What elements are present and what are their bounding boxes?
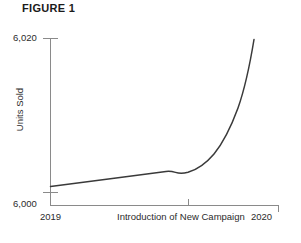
y-axis-title: Units Sold — [14, 75, 25, 145]
y-axis-tick-label-top: 6,020 — [13, 32, 37, 43]
chart-plot-area — [0, 0, 301, 243]
x-axis-annotation-campaign: Introduction of New Campaign — [117, 211, 245, 222]
units-sold-line — [51, 40, 255, 187]
y-axis-tick-label-bottom: 6,000 — [13, 198, 37, 209]
figure-container: FIGURE 1 6,020 6,000 2019 Introduction o… — [0, 0, 301, 243]
x-axis-tick-label-right: 2020 — [251, 211, 272, 222]
x-axis-tick-label-left: 2019 — [40, 211, 61, 222]
